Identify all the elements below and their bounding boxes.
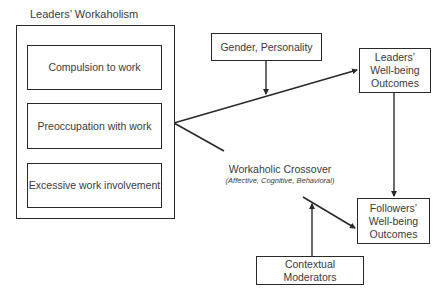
component-compulsion: Compulsion to work [27, 45, 162, 90]
leaders-wellbeing-box: Leaders’ Well-being Outcomes [359, 48, 431, 93]
followers-wellbeing-box: Followers’ Well-being Outcomes [357, 198, 430, 244]
component-label: Compulsion to work [48, 61, 140, 74]
line-to-crossover [174, 123, 224, 151]
gender-personality-box: Gender, Personality [211, 33, 322, 61]
leaders-outcomes-line3: Outcomes [371, 77, 419, 90]
leaders-outcomes-line1: Leaders’ [375, 51, 415, 64]
workaholic-crossover: Workaholic Crossover (Affective, Cogniti… [213, 163, 347, 185]
contextual-moderators-box: Contextual Moderators [256, 256, 364, 285]
component-label: Preoccupation with work [38, 120, 152, 133]
contextual-line2: Moderators [283, 271, 336, 284]
followers-outcomes-line2: Well-being [369, 215, 418, 228]
contextual-line1: Contextual [285, 258, 335, 271]
followers-outcomes-line1: Followers’ [370, 202, 417, 215]
component-label: Excessive work involvement [29, 179, 160, 192]
crossover-sublabel: (Affective, Cognitive, Behavioral) [213, 176, 347, 185]
leaders-outcomes-line2: Well-being [370, 64, 419, 77]
followers-outcomes-line3: Outcomes [370, 228, 418, 241]
component-excessive-involvement: Excessive work involvement [27, 163, 162, 208]
arrow-to-followers-outcomes [303, 197, 355, 228]
leaders-workaholism-title: Leaders’ Workaholism [30, 8, 138, 20]
crossover-label: Workaholic Crossover [213, 163, 347, 175]
component-preoccupation: Preoccupation with work [27, 103, 162, 149]
gender-personality-label: Gender, Personality [220, 41, 312, 54]
